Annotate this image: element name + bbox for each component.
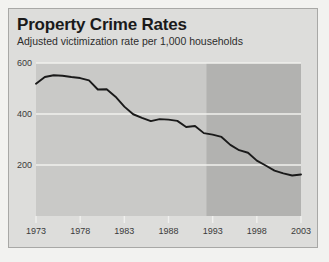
x-axis-tick-label: 1973 (21, 226, 51, 236)
x-axis-tick-label: 1998 (242, 226, 272, 236)
y-axis-tick-label: 400 (10, 109, 32, 119)
x-axis-tick-label: 1983 (109, 226, 139, 236)
chart-card: Property Crime Rates Adjusted victimizat… (8, 8, 318, 248)
line-chart (9, 9, 319, 249)
x-axis-tick-label: 1993 (198, 226, 228, 236)
y-axis-tick-label: 600 (10, 58, 32, 68)
x-axis-tick-label: 1988 (154, 226, 184, 236)
x-axis-tick-label: 1978 (65, 226, 95, 236)
shaded-period-band (206, 63, 301, 216)
chart-plot-area: 6004002001973197819831988199319982003 (9, 9, 319, 249)
y-axis-tick-label: 200 (10, 160, 32, 170)
x-axis-tick-label: 2003 (286, 226, 316, 236)
